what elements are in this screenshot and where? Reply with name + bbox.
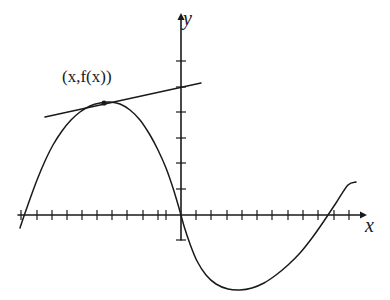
y-axis-label: y [183,8,192,28]
tangency-point-label: (x,f(x)) [62,68,112,85]
graph-canvas [0,0,390,300]
tangency-point-marker [101,100,106,105]
graph-figure: y x (x,f(x)) [0,0,390,300]
axes-group [18,13,367,240]
x-axis-label: x [365,215,374,235]
function-curve [20,102,356,290]
